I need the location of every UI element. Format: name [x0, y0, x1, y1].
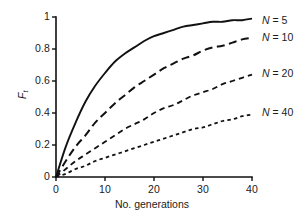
series-lines — [56, 19, 252, 177]
axis-frame — [56, 17, 252, 177]
y-axis-title-subscript: t — [21, 90, 30, 92]
series-label-1: N = 10 — [262, 31, 293, 43]
series-label-symbol-2: N — [262, 67, 270, 79]
series-label-0: N = 5 — [262, 14, 287, 26]
y-tick-label-0: 0 — [14, 170, 50, 182]
x-tick-label-2: 20 — [134, 183, 174, 195]
series-label-value-1: = 10 — [270, 31, 294, 43]
y-axis-title: Ft — [16, 80, 29, 110]
y-tick-label-4: 0.8 — [14, 42, 50, 54]
series-label-symbol-3: N — [262, 106, 270, 118]
y-tick-label-5: 1 — [14, 10, 50, 22]
y-axis-title-symbol: F — [16, 93, 28, 99]
x-tick-label-4: 40 — [232, 183, 272, 195]
series-label-value-0: = 5 — [270, 14, 288, 26]
x-axis-title: No. generations — [0, 198, 304, 210]
series-line-3 — [56, 115, 252, 177]
series-line-2 — [56, 75, 252, 177]
figure-container: 00.20.40.60.81 010203040 No. generations… — [0, 0, 304, 220]
x-tick-label-3: 30 — [183, 183, 223, 195]
series-label-2: N = 20 — [262, 67, 293, 79]
series-label-value-3: = 40 — [270, 106, 294, 118]
series-label-symbol-1: N — [262, 31, 270, 43]
series-label-value-2: = 20 — [270, 67, 294, 79]
axis-lines — [56, 17, 252, 177]
x-tick-label-1: 10 — [85, 183, 125, 195]
series-line-1 — [56, 38, 252, 177]
series-line-0 — [56, 19, 252, 177]
series-label-symbol-0: N — [262, 14, 270, 26]
y-tick-label-1: 0.2 — [14, 138, 50, 150]
series-label-3: N = 40 — [262, 106, 293, 118]
x-tick-label-0: 0 — [36, 183, 76, 195]
